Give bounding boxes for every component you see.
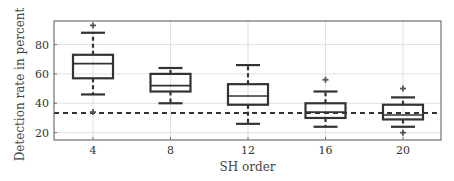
box-plot-chart: 20406080 48121620 SH order Detection rat… <box>0 0 454 181</box>
x-tick-label: 8 <box>167 144 174 157</box>
y-axis-label: Detection rate in percent <box>13 7 27 161</box>
y-tick-label: 20 <box>35 127 49 140</box>
x-tick-label: 4 <box>90 144 97 157</box>
x-tick-label: 20 <box>396 144 410 157</box>
x-axis-label: SH order <box>220 160 276 174</box>
y-tick-label: 40 <box>35 97 49 110</box>
y-tick-label: 60 <box>35 68 49 81</box>
y-tick-label: 80 <box>35 39 49 52</box>
x-tick-label: 12 <box>241 144 255 157</box>
x-tick-label: 16 <box>319 144 333 157</box>
